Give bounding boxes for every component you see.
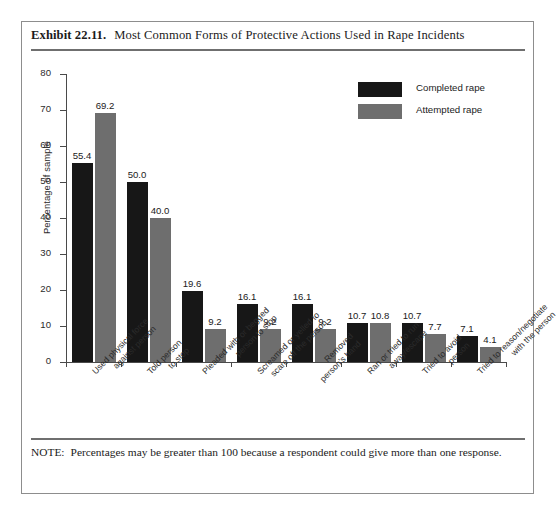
x-axis-tick (66, 362, 67, 367)
exhibit-title-text: Most Common Forms of Protective Actions … (114, 28, 464, 42)
y-axis-tick: 30 (60, 254, 66, 255)
y-axis-tick-label: 80 (40, 67, 51, 78)
bar-value-label: 16.1 (231, 291, 264, 302)
y-axis-tick: 40 (60, 218, 66, 219)
exhibit-frame: Exhibit 22.11.Most Common Forms of Prote… (21, 21, 534, 494)
note-text: Percentages may be greater than 100 beca… (71, 446, 502, 458)
bar-value-label: 50.0 (121, 169, 154, 180)
y-axis-tick: 60 (60, 146, 66, 147)
y-axis-tick: 20 (60, 290, 66, 291)
y-axis-line (66, 74, 67, 363)
plot-area: 01020304050607080 55.469.250.040.019.69.… (66, 74, 506, 362)
exhibit-note: NOTE:Percentages may be greater than 100… (31, 446, 525, 458)
y-axis-tick-label: 60 (40, 139, 51, 150)
bar (95, 113, 116, 362)
bar-value-label: 16.1 (286, 291, 319, 302)
exhibit-title: Exhibit 22.11.Most Common Forms of Prote… (31, 28, 525, 43)
chart-canvas: Percentage of sample Completed rape Atte… (22, 54, 533, 436)
y-axis-tick: 70 (60, 110, 66, 111)
note-divider (31, 438, 525, 440)
bar-value-label: 10.8 (364, 310, 397, 321)
y-axis-tick-label: 40 (40, 211, 51, 222)
title-divider (31, 49, 525, 51)
bar-value-label: 40.0 (144, 205, 177, 216)
bar-value-label: 69.2 (89, 100, 122, 111)
bar-value-label: 19.6 (176, 278, 209, 289)
bar-value-label: 9.2 (199, 316, 232, 327)
y-axis-tick-label: 30 (40, 247, 51, 258)
y-axis-tick-label: 10 (40, 319, 51, 330)
bar-value-label: 10.7 (396, 310, 429, 321)
y-axis-tick-label: 70 (40, 103, 51, 114)
bar (72, 163, 93, 362)
note-label: NOTE: (31, 446, 65, 458)
y-axis-tick-label: 0 (46, 355, 51, 366)
y-axis-tick-label: 50 (40, 175, 51, 186)
y-axis-tick: 10 (60, 326, 66, 327)
exhibit-number: Exhibit 22.11. (31, 28, 106, 42)
y-axis-tick: 50 (60, 182, 66, 183)
bar (150, 218, 171, 362)
y-axis-tick: 80 (60, 74, 66, 75)
y-axis-tick-label: 20 (40, 283, 51, 294)
